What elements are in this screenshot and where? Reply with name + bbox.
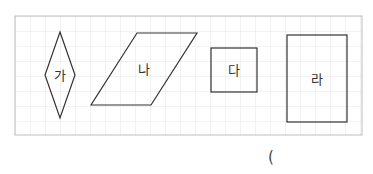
shape-label-na: 나 <box>138 62 150 77</box>
shape-label-da: 다 <box>228 63 240 78</box>
shape-label-ga: 가 <box>54 68 66 83</box>
shape-label-ra: 라 <box>311 72 323 87</box>
grid-frame <box>15 16 362 135</box>
shapes-figure: 가 나 다 라 <box>0 0 373 174</box>
answer-open-paren: ( <box>268 148 274 166</box>
